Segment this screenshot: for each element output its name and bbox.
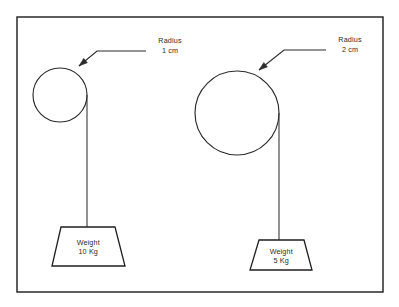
left-radius-label-line2: 1 cm	[162, 46, 178, 55]
right-radius-label-line1: Radius	[338, 35, 362, 44]
diagram-root: Weight 10 Kg Radius 1 cm Weight 5 Kg Rad…	[0, 0, 399, 307]
left-pulley-circle	[33, 68, 87, 122]
right-weight-label-line1: Weight	[270, 247, 293, 256]
left-weight-label-line2: 10 Kg	[78, 247, 98, 256]
right-weight-label-line2: 5 Kg	[274, 256, 289, 265]
left-weight-label-line1: Weight	[77, 238, 100, 247]
left-radius-label-line1: Radius	[158, 36, 182, 45]
pulley-diagram: Weight 10 Kg Radius 1 cm Weight 5 Kg Rad…	[0, 0, 399, 307]
right-pulley-circle	[195, 71, 279, 155]
right-radius-label-line2: 2 cm	[342, 45, 358, 54]
